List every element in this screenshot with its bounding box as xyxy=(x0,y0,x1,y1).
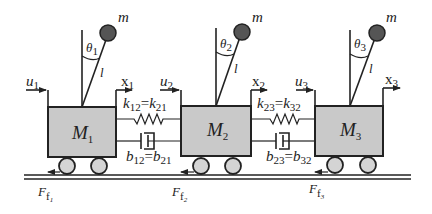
pendulum-2-bob xyxy=(234,24,250,40)
spring-12-label: k12=k21 xyxy=(123,95,167,113)
friction-3-label: Ff3 xyxy=(308,181,325,201)
cart-1-wheel-right xyxy=(91,158,107,174)
theta-2-label: θ2 xyxy=(220,36,232,53)
cart-3-group: m θ3 l u3 x3 M3 Ff3 xyxy=(295,9,400,201)
pendulum-1-bob xyxy=(100,25,116,41)
cart-1-wheel-left xyxy=(59,158,75,174)
theta-1-label: θ1 xyxy=(86,40,98,57)
cart-3-wheel-right xyxy=(360,157,376,173)
cart-pendulum-diagram: m θ1 l u1 x1 M1 Ff1 k12=k21 b12=b21 xyxy=(0,0,432,214)
diagram-canvas: m θ1 l u1 x1 M1 Ff1 k12=k21 b12=b21 xyxy=(0,0,432,214)
length-2-label: l xyxy=(234,61,238,76)
position-x2-label: x2 xyxy=(252,73,265,91)
input-u3-label: u3 xyxy=(295,73,309,91)
cart-2-wheel-right xyxy=(225,158,241,174)
bob-3-label: m xyxy=(386,9,397,25)
damper-23-label: b23=b32 xyxy=(266,148,311,166)
spring-23 xyxy=(251,114,315,124)
bob-1-label: m xyxy=(118,9,129,25)
coupling-2-3: k23=k32 b23=b32 xyxy=(251,95,315,166)
cart-2-wheel-left xyxy=(193,158,209,174)
friction-2-label: Ff2 xyxy=(171,184,188,204)
bob-2-label: m xyxy=(252,9,263,25)
input-u1-label: u1 xyxy=(26,73,39,91)
friction-1-label: Ff1 xyxy=(37,184,53,204)
cart-3-wheel-left xyxy=(327,157,343,173)
spring-12 xyxy=(116,114,181,124)
angle-3-arc xyxy=(350,54,368,58)
damper-12-label: b12=b21 xyxy=(126,148,171,166)
ground-rail xyxy=(24,175,411,179)
position-x1-label: x1 xyxy=(121,73,134,91)
position-x3-label: x3 xyxy=(385,71,399,89)
spring-23-label: k23=k32 xyxy=(257,95,301,113)
input-u2-label: u2 xyxy=(160,73,173,91)
pendulum-3-bob xyxy=(369,25,385,41)
coupling-1-2: k12=k21 b12=b21 xyxy=(116,95,181,166)
length-1-label: l xyxy=(100,65,104,80)
theta-3-label: θ3 xyxy=(354,36,366,53)
length-3-label: l xyxy=(369,61,373,76)
